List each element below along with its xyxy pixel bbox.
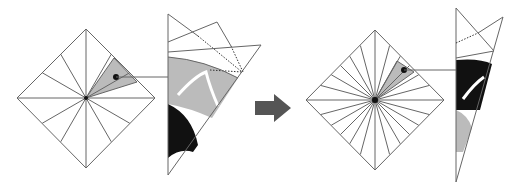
left-dotted-line bbox=[231, 46, 243, 72]
fold-line bbox=[321, 85, 375, 100]
left-flap-line bbox=[168, 22, 231, 46]
fold-line bbox=[375, 100, 429, 115]
left-black-region bbox=[168, 104, 198, 158]
right-center-dot bbox=[372, 97, 378, 103]
diagram-canvas bbox=[0, 0, 509, 191]
right-square bbox=[306, 30, 456, 170]
fold-line bbox=[61, 98, 86, 142]
fold-line bbox=[375, 100, 390, 154]
right-dotted-line bbox=[456, 33, 478, 43]
left-highlight-wedge bbox=[86, 58, 137, 98]
right-wedge-detail bbox=[456, 8, 503, 182]
fold-line bbox=[360, 46, 375, 100]
fold-line bbox=[42, 73, 86, 98]
left-square bbox=[17, 29, 168, 168]
right-flap-line bbox=[456, 51, 494, 58]
arrow-right-icon bbox=[255, 94, 291, 122]
fold-line bbox=[360, 100, 375, 154]
right-flap-line bbox=[456, 8, 494, 51]
fold-line bbox=[86, 98, 111, 142]
left-center-dot bbox=[84, 96, 88, 100]
fold-line bbox=[42, 98, 86, 123]
fold-line bbox=[321, 100, 375, 115]
right-gray-region bbox=[456, 110, 472, 152]
fold-line bbox=[61, 54, 86, 98]
left-gray-region bbox=[168, 57, 238, 118]
fold-line bbox=[86, 98, 130, 123]
left-flap-line bbox=[168, 45, 261, 52]
left-flap-line bbox=[168, 14, 198, 36]
left-wedge-detail bbox=[168, 14, 261, 175]
